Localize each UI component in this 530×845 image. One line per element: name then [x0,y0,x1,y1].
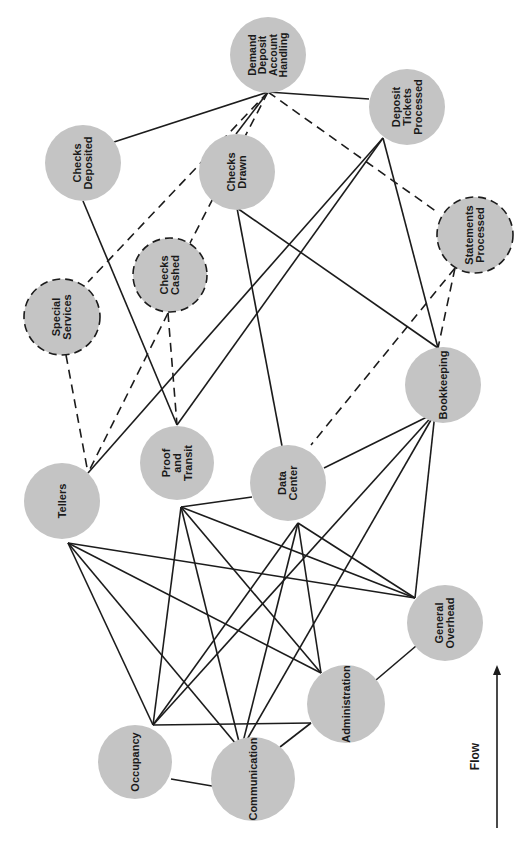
node-cdep: ChecksDeposited [45,125,121,201]
node-bookkeeping: Bookkeeping [405,347,481,423]
edge-dda-to-cdrawn [236,92,268,134]
edge-dtp-to-bookkeeping [383,138,438,348]
edge-go-to-admin [376,646,416,680]
node-pt: ProofandTransit [140,426,214,500]
node-label: DemandDepositAccountHandling [246,33,290,78]
node-label: ChecksDrawn [225,152,248,191]
node-label: Tellers [56,484,68,519]
nodes-layer: DemandDepositAccountHandlingDepositTicke… [24,17,513,821]
edge-dda-to-dtp [268,92,369,99]
node-stmt: StatementsProcessed [437,197,513,273]
node-admin: Administration [307,665,385,743]
edge-bookkeeping-to-go [415,413,435,598]
node-dda: DemandDepositAccountHandling [230,17,306,93]
node-label: GeneralOverhead [433,598,456,649]
node-label: Administration [340,665,352,743]
edge-admin-to-occupancy [153,723,311,725]
node-label: Bookkeeping [437,350,449,419]
edge-dc-to-go [298,523,415,598]
node-cdrawn: ChecksDrawn [199,134,275,210]
node-label: StatementsProcessed [463,205,486,264]
node-dc: DataCenter [250,445,326,521]
node-occupancy: Occupancy [98,725,172,799]
node-dtp: DepositTicketsProcessed [369,69,445,145]
flow-indicator: Flow [468,665,501,828]
edge-occupancy-to-comm [171,779,212,786]
node-go: GeneralOverhead [407,585,483,661]
node-label: SpecialServices [50,294,73,339]
node-label: ChecksCashed [158,255,181,295]
edge-pt-to-dc [181,497,252,507]
node-label: Occupancy [129,731,141,791]
node-tellers: Tellers [24,463,100,539]
node-special: SpecialServices [24,279,100,355]
edge-pt-to-go [181,507,415,598]
flow-arrow-up-icon [493,665,501,675]
edge-admin-to-comm [280,723,311,747]
edge-tellers-to-occupancy [68,543,153,725]
node-ccashed: ChecksCashed [133,238,207,312]
edge-special-to-tellers [66,355,88,473]
node-label: Communication [247,737,259,820]
edge-stmt-to-bookkeeping [438,268,455,348]
cost-flow-diagram: DemandDepositAccountHandlingDepositTicke… [0,0,530,845]
edge-cdrawn-to-dc [237,208,282,446]
flow-label: Flow [468,742,482,770]
node-label: ChecksDeposited [71,136,94,189]
node-comm: Communication [211,737,295,821]
